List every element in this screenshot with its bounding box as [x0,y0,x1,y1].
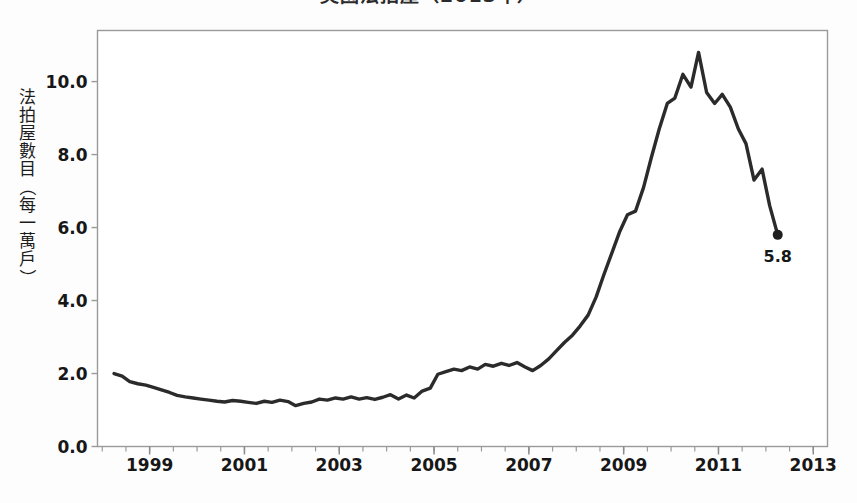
y-axis-title-char: （ [18,172,36,202]
y-tick-label: 6.0 [44,218,88,238]
y-tick-label: 4.0 [44,291,88,311]
chart-title: 美國法拍屋（2013年） [0,0,857,7]
y-axis-title-char: 萬 [12,232,42,250]
y-axis-title-char: 屋 [12,124,42,142]
y-tick-label: 0.0 [44,437,88,457]
y-axis-title-char: 數 [12,142,42,160]
y-axis-title-char: 拍 [12,106,42,124]
y-axis-title: 法拍屋數目（每一萬戶） [12,88,42,286]
x-tick-label: 2011 [683,455,753,475]
x-tick-label: 2009 [589,455,659,475]
x-tick-label: 2001 [209,455,279,475]
x-tick-label: 2003 [304,455,374,475]
endpoint-marker [773,230,783,240]
chart-figure: 美國法拍屋（2013年） 法拍屋數目（每一萬戶） 0.02.04.06.08.0… [0,0,857,503]
x-tick-label: 1999 [115,455,185,475]
plot-frame [98,31,828,447]
plot-area [0,0,857,503]
y-tick-label: 2.0 [44,364,88,384]
y-tick-label: 8.0 [44,145,88,165]
y-axis-title-char: 一 [12,214,42,232]
x-tick-label: 2007 [494,455,564,475]
y-tick-label: 10.0 [44,72,88,92]
y-axis-ticks [92,82,98,447]
x-tick-label: 2013 [778,455,848,475]
x-axis-minor-ticks [102,447,813,452]
x-tick-label: 2005 [399,455,469,475]
y-axis-title-char: ） [18,262,36,292]
endpoint-value-label: 5.8 [764,247,792,266]
y-axis-title-char: 法 [12,88,42,106]
